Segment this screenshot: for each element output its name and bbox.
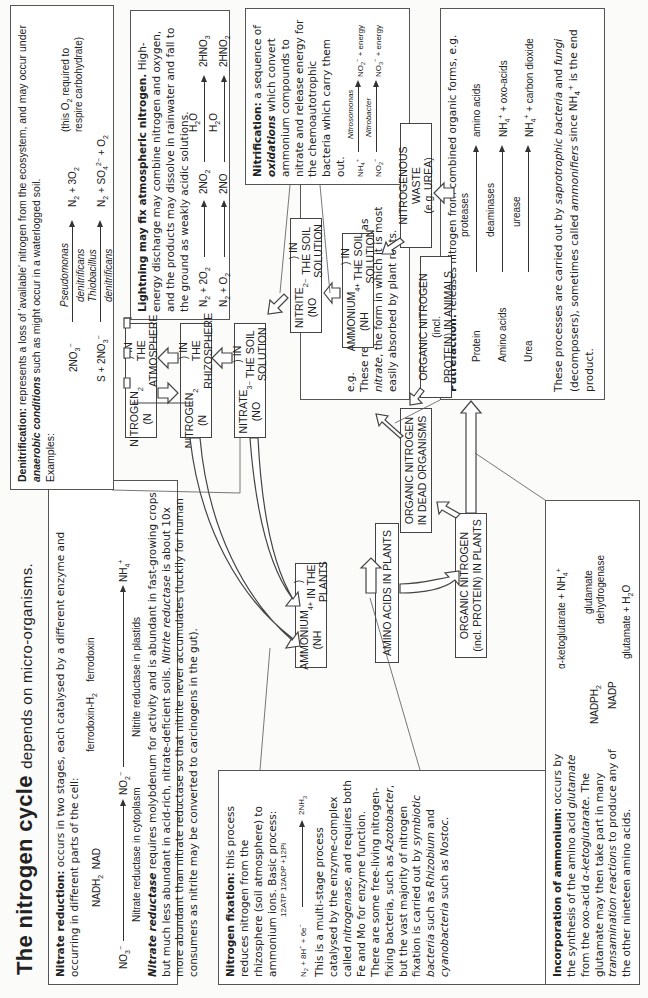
- paragraph: such as: [424, 891, 436, 931]
- block-arrow-icon: [268, 294, 288, 314]
- node-nitrogenous-waste: NITROGENOUS WASTE(e.g. UREA): [400, 123, 432, 248]
- arrow-icon: [502, 147, 503, 272]
- lightning-equations: N2 + 2O2 2NO2 H2O 2HNO3 N2 + O2 2NO H2O …: [191, 18, 231, 312]
- arrow-icon: [224, 202, 225, 257]
- incorporation-equation: α-ketoglutarate + NH4+ NADPH2 NADP gluta…: [546, 504, 636, 729]
- term: glutamate: [565, 754, 577, 808]
- node-ammonium-soil: Ammonium (NH4+) inthe soil solution: [342, 233, 374, 348]
- arrow-icon: [224, 77, 225, 162]
- nitrogen-fixation-box: Nitrogen fixation: this process reduces …: [218, 770, 600, 985]
- nitrification-equations: NH4+ Nitrosomonas NO2− + energy NO2− Nit…: [348, 16, 382, 177]
- block-arrow-icon: [376, 414, 403, 438]
- term: nitrogenase: [341, 880, 353, 943]
- node-organic-animals: ORGANIC NITROGEN (incl.PROTEIN) IN ANIMA…: [420, 256, 452, 398]
- lightning-box: Lightning may fix atmospheric nitrogen. …: [130, 10, 230, 320]
- block-arrow-icon: [158, 383, 178, 403]
- denitrification-heading: Denitrification:: [16, 408, 28, 482]
- arrow-icon: [100, 222, 101, 322]
- nitrogen-fixation-heading: Nitrogen fixation:: [224, 872, 236, 977]
- term: Nitrate reductase: [146, 873, 158, 977]
- enzyme: dehydrogenase: [594, 555, 607, 624]
- arrow-icon: [358, 82, 359, 152]
- term: fungi: [552, 39, 564, 66]
- page-title: The nitrogen cycle depends on micro-orga…: [12, 563, 38, 975]
- term: oxidations: [265, 115, 277, 177]
- term: Nitrite reductase: [160, 575, 172, 663]
- product: amino acids: [470, 84, 483, 137]
- arrow-icon: [204, 202, 205, 257]
- node-amino-acids-plants: Amino acids in plants: [375, 523, 399, 663]
- paragraph: such as: [438, 859, 450, 899]
- examples-label: Examples:: [44, 13, 58, 482]
- term: α-ketoglutarate.: [579, 796, 591, 881]
- arrow-icon: [123, 801, 124, 941]
- paragraph: and: [552, 69, 564, 89]
- enzyme-label: Nitrate reductase in cytoplasm: [130, 787, 143, 922]
- reactant: Protein: [470, 330, 483, 362]
- arrow-icon: [204, 77, 205, 162]
- reactant: Urea: [522, 340, 535, 362]
- node-n2-rhizosphere: Nitrogen (N2) inthe rhizosphere: [180, 323, 212, 438]
- node-organic-dead: Organic nitrogenin dead organisms: [400, 408, 432, 533]
- node-nitrate-soil: Nitrate (NO3−) inthe soil solution: [234, 323, 266, 438]
- block-arrow-icon: [461, 401, 481, 513]
- block-arrow-icon: [190, 438, 300, 648]
- nitrate-reduction-heading: Nitrate reduction:: [54, 871, 66, 978]
- arrow-icon: [302, 822, 303, 907]
- term: anaerobic conditions: [30, 376, 42, 482]
- putrefaction-equations: Protein proteases amino acids Amino acid…: [460, 16, 542, 392]
- paragraph: (decomposers), sometimes called: [567, 214, 579, 392]
- title-sub: depends on micro-organisms.: [18, 563, 35, 769]
- nitrate-reduction-box: Nitrate reduction: occurs in two stages,…: [48, 480, 178, 985]
- title-main: The nitrogen cycle: [12, 775, 37, 975]
- incorporation-box: Incorporation of ammonium: occurs by the…: [545, 500, 640, 985]
- term: transamination reactions: [606, 845, 618, 977]
- enzyme: proteases: [458, 193, 471, 237]
- enzyme: urease: [510, 196, 523, 227]
- lightning-heading: Lightning may fix atmospheric nitrogen.: [136, 74, 148, 312]
- organism: Nitrosomonas: [346, 90, 357, 139]
- term: Rhizobium: [424, 832, 436, 887]
- node-ammonium-plants: Ammonium (NH4+)in the plants: [295, 563, 327, 668]
- term: Azotobacter: [383, 788, 395, 851]
- block-arrow-icon: [212, 348, 232, 368]
- node-n2-atmosphere: Nitrogen (N2) inthe atmosphere: [125, 323, 157, 438]
- arrow-icon: [528, 147, 529, 272]
- leader-line: [260, 648, 270, 770]
- enzyme: deaminases: [484, 183, 497, 237]
- incorporation-heading: Incorporation of ammonium:: [551, 808, 563, 977]
- nitrogen-cycle-page: The nitrogen cycle depends on micro-orga…: [0, 0, 648, 998]
- paragraph: represents a loss of 'available' nitroge…: [16, 25, 28, 405]
- nitrification-box: Nitrification: a sequence of oxidations …: [245, 8, 410, 185]
- putrefaction-box: Putrefaction: releases nitrogen from com…: [440, 8, 605, 400]
- term: ammonifiers: [567, 145, 579, 211]
- denitrification-equations: 2NO3− Pseudomonas denitrificans N2 + 3O2…: [58, 13, 108, 482]
- nitrogen-fixation-equation: 12ATP 12ADP +12Pi N2 + 8H+ + 6e− 2NH3: [279, 778, 313, 977]
- term: saprotrophic bacteria: [552, 92, 564, 205]
- enzyme-label: Nitrite reductase in plastids: [130, 617, 143, 737]
- paragraph: which convert ammonium compounds to nitr…: [265, 20, 346, 177]
- organism: Pseudomonas: [58, 243, 71, 307]
- term: Nostoc.: [438, 816, 450, 855]
- reactant: Amino acids: [496, 308, 509, 362]
- cofactors: 12ATP 12ADP +12Pi: [279, 843, 290, 917]
- paragraph: a sequence of: [251, 25, 263, 99]
- term: cyanobacteria: [438, 902, 450, 977]
- organism: denitrificans: [102, 249, 115, 302]
- term: nitrate: [372, 357, 384, 392]
- arrow-icon: [376, 82, 377, 152]
- leader-line: [475, 453, 545, 500]
- organism: Nitrobacter: [364, 98, 375, 137]
- paragraph: and: [424, 809, 436, 829]
- block-arrow-icon: [400, 571, 459, 593]
- node-organic-plants: ORGANIC NITROGEN(incl. PROTEIN) IN PLANT…: [455, 513, 487, 658]
- node-nitrite-soil: Nitrite (NO2−) inthe soil solution: [290, 218, 322, 333]
- organism: Thiobacillus: [86, 249, 99, 302]
- arrow-icon: [123, 587, 124, 767]
- nitrification-heading: Nitrification:: [251, 102, 263, 177]
- block-arrow-icon: [158, 348, 178, 368]
- paragraph: from the oxo-acid: [579, 884, 591, 977]
- arrow-icon: [476, 147, 477, 272]
- denitrification-box: Denitrification: represents a loss of 'a…: [10, 5, 114, 490]
- nitrate-reduction-equation: NO3− NADH2 NAD NO2− ferrodoxin-H2 ferrod…: [82, 488, 142, 977]
